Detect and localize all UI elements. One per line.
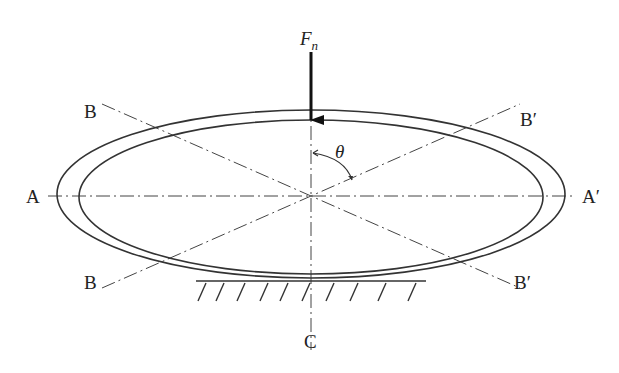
label-B-bottom-left: B [84,272,97,293]
theta-label: θ [335,141,344,162]
label-A-right: A′ [582,186,600,207]
angle-arc [313,153,352,180]
label-B-bottom-right: B′ [514,272,531,293]
label-A-left: A [26,186,40,207]
force-label: Fn [299,28,318,53]
label-C-bottom: C [304,331,317,352]
label-B-top-left: B [84,101,97,122]
label-B-top-right: B′ [520,109,537,130]
ring-diagram: Fn θ A A′ B B′ B B′ C [0,0,619,373]
